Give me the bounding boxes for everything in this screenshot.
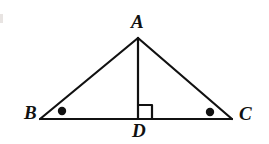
- segment-AB: [40, 38, 138, 119]
- vertex-label-b: B: [24, 103, 37, 122]
- vertex-label-a: A: [131, 12, 144, 31]
- vertex-label-d: D: [132, 121, 146, 140]
- angle-dot-b-icon: [58, 107, 66, 115]
- vertex-label-c: C: [239, 104, 252, 123]
- angle-dot-c-icon: [206, 108, 214, 116]
- right-angle-marker-icon: [138, 105, 152, 119]
- geometry-figure: A B C D: [0, 0, 269, 144]
